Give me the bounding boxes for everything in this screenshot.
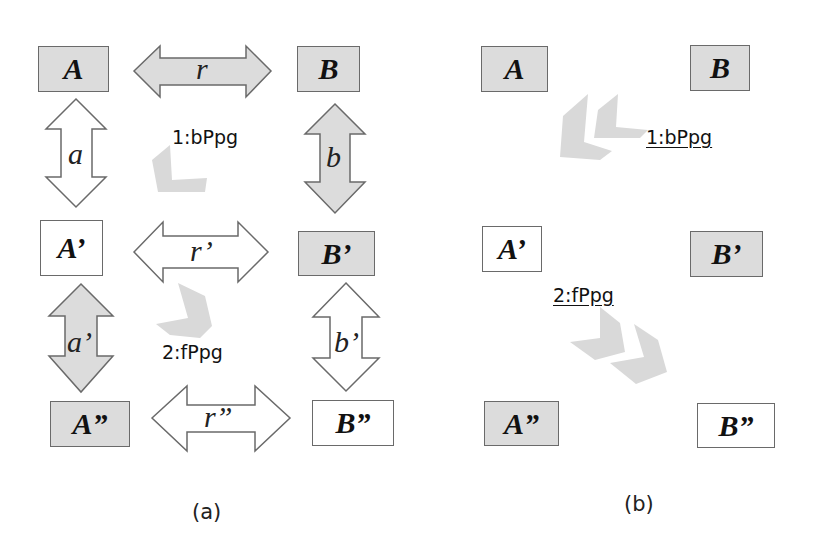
node-b-prime: B’ bbox=[298, 231, 375, 276]
node-b-double-prime: B” bbox=[312, 400, 394, 446]
node-b: B bbox=[297, 46, 360, 92]
step-label-forward-b: 2:fPpg bbox=[553, 284, 614, 306]
arrow-label-a-prime: a’ bbox=[67, 325, 92, 359]
node-b-panel-b-double-prime: B” bbox=[697, 403, 775, 448]
step-label-backward: 1:bPpg bbox=[172, 126, 238, 148]
node-b-panel-a: A bbox=[481, 46, 548, 92]
node-a: A bbox=[38, 46, 109, 92]
node-a-double-prime: A” bbox=[50, 401, 130, 447]
node-b-panel-b: B bbox=[690, 45, 750, 91]
arrow-label-a: a bbox=[68, 137, 83, 171]
arrow-label-r-double-prime: r” bbox=[204, 400, 232, 434]
arrow-label-b-prime: b’ bbox=[334, 325, 359, 359]
arrow-label-r-prime: r’ bbox=[190, 234, 213, 268]
caption-a: (a) bbox=[192, 500, 221, 524]
arrow-label-b: b bbox=[326, 140, 341, 174]
node-b-panel-b-prime: B’ bbox=[690, 231, 763, 277]
step-label-forward: 2:fPpg bbox=[162, 341, 223, 363]
node-b-panel-a-prime: A’ bbox=[482, 226, 542, 272]
caption-b: (b) bbox=[624, 492, 654, 516]
chevron-backward-icon-2 bbox=[594, 94, 648, 138]
chevron-forward-icon bbox=[156, 283, 212, 338]
step-label-backward-b: 1:bPpg bbox=[646, 126, 712, 148]
chevron-forward-icon-1 bbox=[570, 307, 625, 360]
chevron-backward-icon bbox=[152, 145, 207, 192]
node-b-panel-a-double-prime: A” bbox=[484, 401, 559, 446]
arrow-label-r: r bbox=[196, 52, 208, 86]
node-a-prime: A’ bbox=[40, 220, 103, 276]
